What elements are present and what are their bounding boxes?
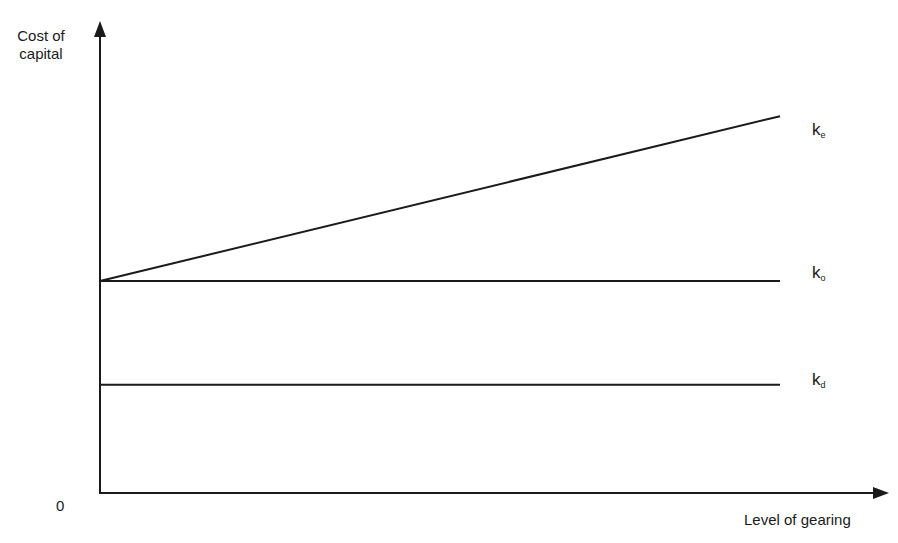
x-axis-arrow-icon (873, 487, 889, 499)
y-axis-arrow-icon (94, 21, 106, 37)
x-axis-label: Level of gearing (744, 511, 851, 529)
kd-main: k (812, 370, 821, 389)
chart-canvas (0, 0, 898, 543)
y-axis-label-line2: capital (5, 45, 77, 63)
ke-main: k (812, 120, 821, 139)
y-axis-label: Cost of capital (5, 27, 77, 63)
ke-subscript: e (821, 130, 826, 140)
series-line-ke (100, 116, 780, 281)
ko-main: k (812, 263, 821, 282)
ko-subscript: o (821, 273, 826, 283)
kd-subscript: d (821, 380, 826, 390)
series-label-ke: ke (812, 120, 826, 140)
series-label-ko: ko (812, 263, 826, 283)
origin-label: 0 (56, 497, 64, 515)
y-axis-label-line1: Cost of (5, 27, 77, 45)
series-label-kd: kd (812, 370, 826, 390)
